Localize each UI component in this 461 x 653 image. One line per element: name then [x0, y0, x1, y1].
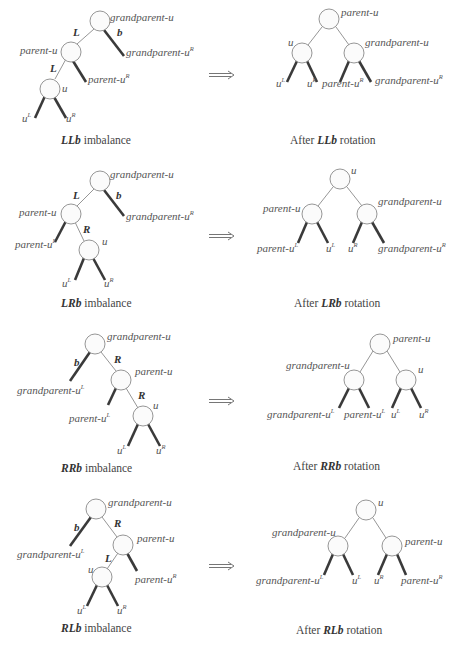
subtree-edge: [148, 424, 160, 446]
label-grandparent: grandparent-u: [110, 11, 174, 23]
rlb-after-caption: After RLb rotation: [296, 624, 382, 636]
subtree-uL: uL: [391, 407, 401, 420]
edge: [345, 518, 359, 538]
subtree-parent-uR: parent-uR: [321, 76, 363, 89]
subtree-edge: [54, 97, 66, 118]
lrb-before-caption: LRb imbalance: [60, 297, 132, 309]
node-grandparent: [357, 204, 377, 224]
subtree-edge: [397, 554, 406, 575]
rrb-before-tree: grandparent-u parent-u u b R R grandpare…: [17, 330, 173, 456]
subtree-edge: [128, 424, 138, 446]
label-u: u: [62, 82, 68, 94]
subtree-edge: [127, 553, 137, 571]
subtree-parent-uL: parent-uL: [14, 237, 56, 250]
subtree-parent-uR: parent-uR: [134, 572, 176, 585]
panel-lrb: grandparent-u parent-u u L b R grandpare…: [14, 164, 446, 309]
edge-label-L: L: [49, 62, 57, 74]
subtree-grandparent-uL: grandparent-uL: [256, 573, 324, 586]
subtree-edge: [324, 554, 333, 575]
edge: [373, 518, 386, 538]
subtree-parent-uL: parent-uL: [68, 411, 110, 424]
subtree-grandparent-uR: grandparent-uR: [378, 241, 446, 254]
llb-before-tree: grandparent-u parent-u u L b L grandpare…: [19, 11, 194, 124]
label-u: u: [378, 496, 384, 508]
avl-rotations-diagram: grandparent-u parent-u u L b L grandpare…: [0, 0, 461, 653]
subtree-uL: uL: [22, 111, 32, 124]
edge: [308, 27, 322, 45]
subtree-edge: [353, 222, 362, 243]
edge: [387, 351, 400, 372]
node-parent: [111, 370, 131, 390]
llb-before-caption: LLb imbalance: [60, 134, 131, 146]
label-grandparent: grandparent-u: [107, 330, 171, 342]
rrb-after-caption: After RRb rotation: [293, 460, 380, 472]
subtree-edge: [70, 352, 90, 381]
subtree-uL: uL: [117, 443, 127, 456]
subtree-parent-uR: parent-uR: [87, 72, 129, 85]
subtree-uR: uR: [307, 76, 317, 89]
subtree-edge: [372, 222, 384, 243]
edge-label-R: R: [137, 389, 145, 401]
node-parent: [302, 204, 322, 224]
edge-label-b: b: [116, 189, 122, 201]
rlb-before-tree: grandparent-u parent-u u b R L grandpare…: [17, 496, 176, 616]
node-parent: [61, 42, 81, 62]
subtree-grandparent-uL: grandparent-uL: [17, 383, 85, 396]
node-grandparent: [90, 11, 110, 31]
label-u: u: [88, 563, 94, 575]
label-parent: parent-u: [404, 535, 443, 547]
rrb-before-caption: RRb imbalance: [60, 462, 132, 474]
node-grandparent: [344, 43, 364, 63]
label-parent: parent-u: [134, 365, 173, 377]
label-parent: parent-u: [136, 532, 175, 544]
subtree-edge: [35, 96, 45, 118]
subtree-grandparent-uR: grandparent-uR: [126, 45, 194, 58]
rrb-after-tree: parent-u grandparent-u u grandparent-uL …: [267, 332, 431, 420]
label-u: u: [288, 36, 294, 48]
node-parent: [382, 536, 402, 556]
label-u: u: [153, 399, 159, 411]
subtree-grandparent-uR: grandparent-uR: [126, 209, 194, 222]
subtree-uR: uR: [104, 276, 114, 289]
panel-llb: grandparent-u parent-u u L b L grandpare…: [19, 6, 443, 146]
edge: [318, 187, 333, 206]
subtree-grandparent-uL: grandparent-uL: [267, 407, 335, 420]
lrb-after-caption: After LRb rotation: [294, 297, 380, 309]
subtree-uL: uL: [62, 276, 72, 289]
arrow-icon: [209, 232, 234, 240]
subtree-uL: uL: [77, 603, 87, 616]
edge-label-L: L: [72, 189, 80, 201]
node-grandparent: [86, 499, 106, 519]
edge: [336, 27, 349, 45]
label-grandparent: grandparent-u: [108, 496, 172, 508]
arrow-icon: [209, 397, 234, 405]
label-parent: parent-u: [262, 202, 301, 214]
subtree-edge: [75, 258, 84, 280]
label-grandparent: grandparent-u: [272, 526, 336, 538]
node-parent: [370, 334, 390, 354]
edge: [360, 351, 373, 372]
subtree-edge: [107, 585, 118, 606]
node-parent: [319, 9, 339, 29]
edge: [347, 187, 362, 206]
node-u: [92, 567, 112, 587]
subtree-edge: [359, 388, 369, 408]
subtree-edge: [411, 388, 421, 408]
node-parent: [61, 204, 81, 224]
node-u: [133, 406, 153, 426]
node-u: [356, 500, 376, 520]
arrow-icon: [209, 562, 234, 570]
node-parent: [113, 535, 133, 555]
label-parent: parent-u: [392, 332, 431, 344]
panel-rrb: grandparent-u parent-u u b R R grandpare…: [17, 330, 431, 474]
subtree-uR: uR: [348, 241, 358, 254]
lrb-after-tree: u parent-u grandparent-u parent-uL uL uR…: [256, 164, 446, 254]
subtree-edge: [343, 554, 353, 575]
subtree-uL: uL: [352, 573, 362, 586]
subtree-uL: uL: [326, 241, 336, 254]
edge-label-R: R: [82, 223, 90, 235]
subtree-uR: uR: [156, 443, 166, 456]
node-u: [79, 240, 99, 260]
label-grandparent: grandparent-u: [286, 359, 350, 371]
label-u: u: [102, 235, 108, 247]
